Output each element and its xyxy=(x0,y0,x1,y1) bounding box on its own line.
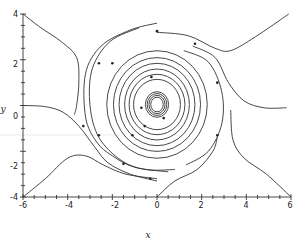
trajectory-lower-right-inflow xyxy=(157,138,217,197)
trajectory-inner-right-orbit xyxy=(184,51,224,165)
x-axis-title: x xyxy=(145,230,150,240)
initial-point-marker xyxy=(82,125,85,128)
y-axis xyxy=(20,14,26,197)
trajectories xyxy=(23,14,291,197)
x-tick-label: 4 xyxy=(243,201,248,210)
initial-point-marker xyxy=(131,134,134,137)
initial-point-marker xyxy=(98,134,101,137)
x-tick-label: -2 xyxy=(111,201,119,210)
initial-point-marker xyxy=(143,125,146,128)
y-tick-label: -2 xyxy=(10,162,18,171)
initial-point-marker xyxy=(162,117,165,120)
y-tick-labels: 4 2 0 -2 -4 xyxy=(10,10,18,202)
trajectory-upper-left-separatrix xyxy=(23,14,79,115)
initial-point-marker xyxy=(149,177,152,180)
y-tick-label: -4 xyxy=(10,193,18,202)
initial-point-marker xyxy=(156,30,159,33)
trajectory-lower-left-separatrix xyxy=(23,155,157,197)
closed-orbit xyxy=(151,97,164,112)
orbits xyxy=(107,51,208,159)
x-tick-label: 0 xyxy=(154,201,159,210)
y-tick-label: 2 xyxy=(13,60,18,69)
initial-point-marker xyxy=(216,134,219,137)
closed-orbit xyxy=(107,51,208,159)
initial-point-marker xyxy=(216,81,219,84)
initial-point-marker xyxy=(140,106,143,109)
closed-orbit xyxy=(113,58,200,152)
x-tick-label: -6 xyxy=(19,201,27,210)
trajectory-lower-right-separatrix xyxy=(231,110,291,197)
phase-portrait-chart: 4 2 0 -2 -4 -6 -4 -2 0 2 4 6 x y xyxy=(0,0,299,243)
x-tick-label: -4 xyxy=(65,201,73,210)
x-tick-label: 2 xyxy=(198,201,203,210)
x-axis xyxy=(23,194,291,200)
closed-orbit xyxy=(119,63,195,145)
closed-orbit xyxy=(149,95,165,113)
initial-point-marker xyxy=(111,62,114,65)
initial-point-marker xyxy=(194,42,197,45)
trajectory-outer-left-orbit-2 xyxy=(89,28,175,171)
y-tick-label: 4 xyxy=(13,10,18,19)
initial-point-marker xyxy=(98,62,101,65)
initial-point-marker xyxy=(122,163,125,166)
y-tick-label: 0 xyxy=(13,112,18,121)
trajectory-upper-right-separatrix xyxy=(157,14,289,51)
closed-orbit xyxy=(134,79,181,129)
x-tick-label: 6 xyxy=(287,201,292,210)
y-axis-title: y xyxy=(0,104,6,114)
closed-orbit xyxy=(129,74,185,134)
x-tick-labels: -6 -4 -2 0 2 4 6 xyxy=(19,201,293,210)
initial-point-marker xyxy=(150,76,153,79)
